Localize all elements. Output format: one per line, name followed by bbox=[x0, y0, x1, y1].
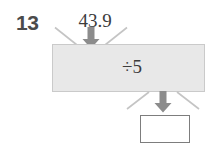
input-burst-right-line bbox=[105, 28, 127, 46]
input-burst-left-line bbox=[55, 28, 77, 46]
machine-output-arrow-group bbox=[124, 90, 202, 114]
output-burst-left-line bbox=[127, 92, 149, 109]
arrow-down-icon bbox=[155, 91, 172, 113]
worksheet-exercise-canvas: 13 43.9 ÷5 bbox=[0, 0, 221, 148]
answer-input-box[interactable] bbox=[140, 115, 190, 143]
exercise-number: 13 bbox=[16, 11, 46, 35]
output-burst-right-line bbox=[177, 92, 199, 109]
function-machine-operation-label: ÷5 bbox=[100, 56, 164, 78]
output-arrow-svg bbox=[124, 90, 202, 114]
